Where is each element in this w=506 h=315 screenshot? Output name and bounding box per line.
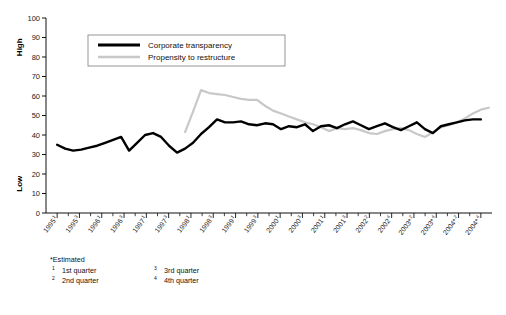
footnote-label: 4th quarter — [164, 276, 199, 285]
y-tick-label: 20 — [32, 170, 40, 179]
chart-legend: Corporate transparencyPropensity to rest… — [88, 35, 285, 66]
chart-container: 0102030405060708090100 HighLow 199511995… — [0, 0, 506, 315]
y-axis-low-label: Low — [15, 175, 24, 192]
y-tick-label: 30 — [32, 150, 40, 159]
y-tick-label: 60 — [32, 92, 40, 101]
y-tick-label: 70 — [32, 72, 40, 81]
footnote-superscript: 4 — [154, 275, 157, 281]
y-axis-high-label: High — [15, 38, 24, 56]
y-tick-label: 90 — [32, 33, 40, 42]
legend-label: Corporate transparency — [148, 41, 232, 50]
line-chart: 0102030405060708090100 HighLow 199511995… — [0, 0, 506, 315]
legend-label: Propensity to restructure — [148, 53, 236, 62]
y-tick-label: 50 — [32, 111, 40, 120]
footnote-label: 3rd quarter — [164, 266, 200, 275]
footnote-label: 1st quarter — [62, 266, 97, 275]
footnote-superscript: 3 — [154, 265, 157, 271]
y-tick-label: 0 — [36, 209, 40, 218]
footnote-superscript: 2 — [52, 275, 55, 281]
footnote-superscript: 1 — [52, 265, 55, 271]
y-tick-label: 100 — [27, 14, 40, 23]
footnote-label: 2nd quarter — [62, 276, 99, 285]
y-tick-label: 10 — [32, 189, 40, 198]
y-tick-label: 80 — [32, 53, 40, 62]
footnote-estimated: *Estimated — [50, 255, 85, 264]
y-tick-label: 40 — [32, 131, 40, 140]
